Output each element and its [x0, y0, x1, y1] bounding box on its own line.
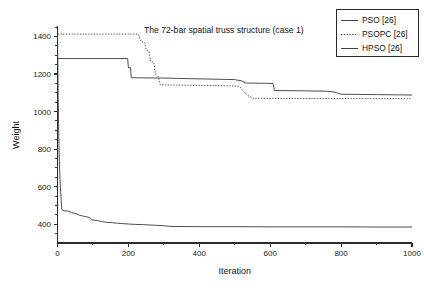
legend-label-hpso: HPSO [26]	[362, 43, 402, 53]
axes	[54, 26, 413, 247]
y-tick-label: 800	[38, 145, 52, 154]
y-axis-title: Weight	[11, 121, 21, 149]
y-tick-label: 1200	[33, 70, 51, 79]
series-lines	[58, 34, 413, 227]
x-tick-label: 0	[55, 249, 60, 258]
x-tick-label: 400	[193, 249, 207, 258]
convergence-line-chart: 40060080010001200140002004006008001000It…	[0, 0, 424, 290]
x-tick-label: 600	[264, 249, 278, 258]
x-axis-title: Iteration	[218, 266, 251, 276]
chart-figure: 40060080010001200140002004006008001000It…	[0, 0, 424, 290]
series-line-hpso	[58, 36, 413, 227]
x-tick-label: 1000	[403, 249, 421, 258]
y-tick-label: 400	[38, 220, 52, 229]
legend-label-psopc: PSOPC [26]	[362, 29, 408, 39]
x-tick-label: 800	[334, 249, 348, 258]
x-tick-label: 200	[122, 249, 136, 258]
y-tick-label: 1400	[33, 32, 51, 41]
y-tick-label: 600	[38, 183, 52, 192]
series-line-pso	[58, 59, 413, 95]
axis-labels: 40060080010001200140002004006008001000It…	[11, 25, 421, 276]
legend-label-pso: PSO [26]	[362, 15, 396, 25]
y-tick-label: 1000	[33, 108, 51, 117]
chart-title: The 72-bar spatial truss structure (case…	[144, 25, 304, 35]
legend: PSO [26]PSOPC [26]HPSO [26]	[336, 10, 418, 57]
